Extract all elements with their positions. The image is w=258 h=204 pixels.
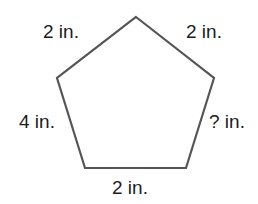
- side-label-top-left: 2 in.: [43, 22, 79, 41]
- side-label-top-right: 2 in.: [186, 22, 222, 41]
- side-label-bottom: 2 in.: [112, 178, 148, 197]
- pentagon-figure: 2 in. 2 in. 4 in. ? in. 2 in.: [0, 0, 258, 204]
- side-label-right-unknown: ? in.: [209, 112, 245, 131]
- side-label-left: 4 in.: [19, 112, 55, 131]
